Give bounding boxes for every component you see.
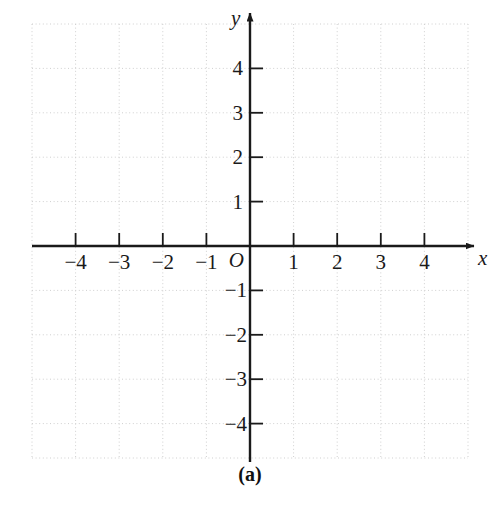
y-tick-label--4: −4 — [225, 413, 247, 434]
x-tick-label-4: 4 — [419, 252, 430, 273]
panel-caption: (a) — [238, 464, 261, 484]
x-tick-label-2: 2 — [332, 252, 343, 273]
y-tick-label-3: 3 — [233, 102, 244, 123]
x-tick-label--2: −2 — [152, 252, 174, 273]
x-axis-label: x — [478, 248, 487, 269]
origin-label: O — [229, 250, 244, 271]
x-tick-label--3: −3 — [108, 252, 130, 273]
y-tick-label-4: 4 — [233, 58, 244, 79]
y-tick-label--2: −2 — [225, 324, 247, 345]
coordinate-plane-figure: −4 −3 −2 −1 1 2 3 4 4 3 2 1 −1 −2 −3 −4 … — [0, 0, 499, 509]
x-tick-label--4: −4 — [64, 252, 86, 273]
y-tick-label-2: 2 — [233, 147, 244, 168]
axes — [32, 13, 474, 462]
y-tick-label--3: −3 — [225, 369, 247, 390]
x-tick-label-1: 1 — [288, 252, 299, 273]
x-tick-label-3: 3 — [376, 252, 387, 273]
y-axis-label: y — [231, 8, 240, 29]
y-tick-label-1: 1 — [233, 191, 244, 212]
x-tick-label--1: −1 — [195, 252, 217, 273]
y-tick-label--1: −1 — [225, 280, 247, 301]
